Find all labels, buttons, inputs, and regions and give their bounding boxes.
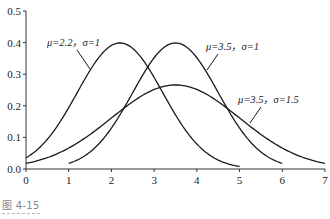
annotation-label: μ=3.5，σ=1 [205, 41, 259, 52]
y-tick-label: 0.2 [7, 100, 21, 112]
x-tick-label: 1 [66, 174, 72, 186]
figure-caption: 图 4-15 [2, 197, 40, 214]
x-tick-label: 2 [109, 174, 115, 186]
annotation-label: μ=3.5，σ=1.5 [237, 94, 299, 105]
annotation-label: μ=2.2，σ=1 [46, 37, 100, 48]
y-tick-label: 0.4 [7, 37, 21, 49]
y-tick-label: 0.0 [7, 163, 21, 175]
x-tick-label: 7 [322, 174, 328, 186]
x-tick-label: 5 [237, 174, 243, 186]
y-tick-label: 0.1 [7, 131, 21, 143]
curve-series-0 [26, 43, 240, 167]
annotation-leader-line [77, 50, 90, 69]
x-tick-label: 6 [280, 174, 286, 186]
annotation-leader-line [207, 54, 218, 70]
annotation-leader-line [250, 107, 261, 123]
x-tick-label: 0 [23, 174, 29, 186]
y-tick-label: 0.3 [7, 68, 21, 80]
x-tick-label: 4 [194, 174, 200, 186]
x-tick-label: 3 [151, 174, 157, 186]
normal-distribution-chart: 0.00.10.20.30.40.501234567 μ=2.2，σ=1μ=3.… [0, 0, 330, 219]
y-tick-label: 0.5 [7, 5, 21, 17]
